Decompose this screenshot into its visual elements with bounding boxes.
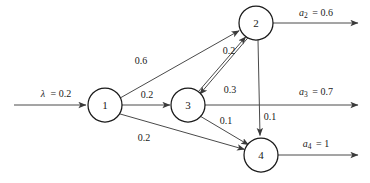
queueing-network-diagram: 1 2 3 4 0.6 0.2 0.2 0.2 0.3 0.1 0.1 λ = …	[0, 0, 370, 183]
a4-value: 1	[324, 138, 329, 149]
a2-value: 0.6	[320, 7, 333, 18]
lambda-symbol: λ	[40, 88, 46, 99]
edge-label-2-to-3: 0.3	[224, 84, 237, 95]
node-2-label: 2	[253, 17, 259, 29]
network-graph-canvas: 1 2 3 4 0.6 0.2 0.2 0.2 0.3 0.1 0.1 λ = …	[0, 0, 370, 183]
departure-label-a2: a2 = 0.6	[299, 7, 333, 20]
departure-label-a3: a3 = 0.7	[299, 86, 333, 99]
edge-label-1-to-3: 0.2	[141, 89, 154, 100]
edge-label-1-to-4: 0.2	[138, 132, 151, 143]
departure-label-a4: a4 = 1	[303, 138, 329, 151]
external-arrival-label: λ = 0.2	[40, 88, 71, 99]
node-1-label: 1	[102, 99, 108, 111]
edge-label-3-to-4: 0.1	[220, 115, 233, 126]
node-4-label: 4	[258, 149, 264, 161]
a3-subscript: 3	[304, 90, 308, 99]
a3-value: 0.7	[320, 86, 333, 97]
node-3-label: 3	[185, 99, 191, 111]
edge-2-to-4	[258, 40, 260, 136]
a2-subscript: 2	[304, 11, 308, 20]
lambda-value: 0.2	[59, 88, 72, 99]
edge-label-1-to-2: 0.6	[135, 55, 148, 66]
edge-label-2-to-4: 0.1	[264, 111, 277, 122]
a4-subscript: 4	[308, 142, 312, 151]
edge-label-3-to-2: 0.2	[223, 45, 236, 56]
